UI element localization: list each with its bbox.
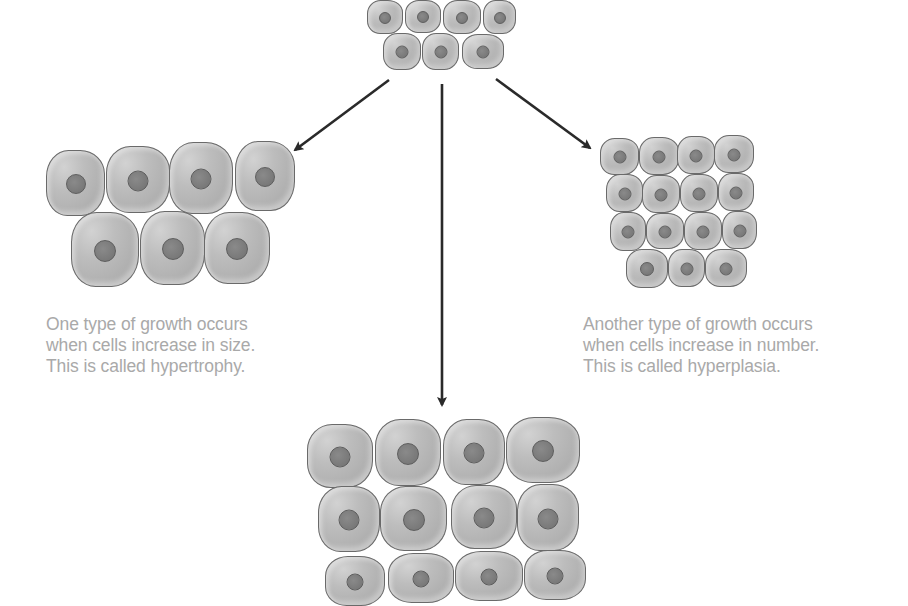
- cell: [455, 551, 523, 601]
- nucleus-icon: [653, 150, 666, 163]
- cell: [106, 146, 170, 213]
- cell: [325, 556, 385, 606]
- nucleus-icon: [255, 167, 275, 187]
- cell: [517, 484, 579, 551]
- nucleus-icon: [733, 224, 746, 237]
- cell: [606, 174, 643, 212]
- nucleus-icon: [403, 509, 425, 531]
- caption-line: This is called hyperplasia.: [583, 356, 819, 377]
- caption-line: when cells increase in number.: [583, 335, 819, 356]
- cell: [714, 135, 754, 173]
- cell: [646, 213, 684, 249]
- nucleus-icon: [655, 188, 668, 201]
- cell: [169, 142, 233, 214]
- nucleus-icon: [659, 225, 672, 238]
- hyperplasia-caption: Another type of growth occurs when cells…: [583, 314, 819, 377]
- nucleus-icon: [396, 46, 409, 59]
- nucleus-icon: [538, 508, 559, 529]
- nucleus-icon: [417, 11, 429, 23]
- nucleus-icon: [66, 174, 86, 194]
- nucleus-icon: [397, 443, 419, 465]
- nucleus-icon: [640, 262, 654, 276]
- cell: [235, 141, 295, 211]
- nucleus-icon: [693, 187, 706, 200]
- caption-line: when cells increase in size.: [46, 335, 255, 356]
- nucleus-icon: [330, 447, 351, 468]
- cell: [405, 0, 441, 33]
- cell: [462, 34, 504, 69]
- nucleus-icon: [191, 169, 212, 190]
- nucleus-icon: [128, 170, 149, 191]
- nucleus-icon: [477, 46, 490, 59]
- nucleus-icon: [481, 568, 498, 585]
- cell: [722, 211, 757, 249]
- cell: [506, 417, 580, 483]
- nucleus-icon: [434, 46, 447, 59]
- caption-line: One type of growth occurs: [46, 314, 255, 335]
- nucleus-icon: [347, 573, 364, 590]
- cell: [383, 33, 421, 70]
- nucleus-icon: [613, 151, 626, 164]
- cell: [318, 486, 380, 552]
- nucleus-icon: [379, 12, 391, 24]
- cell: [380, 486, 447, 551]
- nucleus-icon: [728, 148, 741, 161]
- cell: [626, 249, 668, 288]
- cell: [375, 419, 441, 486]
- caption-line: This is called hypertrophy.: [46, 356, 255, 377]
- nucleus-icon: [730, 186, 743, 199]
- cell: [46, 150, 105, 216]
- cell: [422, 33, 459, 70]
- cell: [668, 249, 705, 287]
- caption-line: Another type of growth occurs: [583, 314, 819, 335]
- cell: [600, 138, 639, 175]
- nucleus-icon: [226, 238, 248, 260]
- nucleus-icon: [413, 570, 430, 587]
- cell: [443, 0, 481, 34]
- cell: [718, 173, 754, 211]
- cell: [524, 550, 586, 600]
- cell: [443, 419, 505, 485]
- cell: [677, 136, 715, 174]
- cell: [639, 137, 679, 175]
- cell: [483, 0, 516, 34]
- nucleus-icon: [456, 12, 468, 24]
- cell: [705, 249, 747, 287]
- nucleus-icon: [680, 262, 693, 275]
- cell: [684, 212, 722, 250]
- nucleus-icon: [622, 226, 635, 239]
- hypertrophy-caption: One type of growth occurs when cells inc…: [46, 314, 255, 377]
- cell: [610, 212, 646, 251]
- cell: [307, 424, 373, 488]
- nucleus-icon: [474, 508, 495, 529]
- nucleus-icon: [339, 510, 360, 531]
- nucleus-icon: [532, 440, 554, 462]
- cell: [140, 211, 205, 285]
- nucleus-icon: [464, 443, 485, 464]
- cell: [204, 212, 270, 284]
- nucleus-icon: [547, 567, 564, 584]
- nucleus-icon: [494, 12, 506, 24]
- nucleus-icon: [690, 149, 703, 162]
- cell: [71, 212, 139, 287]
- cell: [680, 174, 718, 212]
- nucleus-icon: [618, 187, 631, 200]
- cell: [388, 553, 454, 603]
- nucleus-icon: [720, 262, 733, 275]
- nucleus-icon: [162, 238, 184, 260]
- nucleus-icon: [697, 225, 710, 238]
- arrow-to-hypertrophy-icon: [295, 80, 389, 150]
- cell: [367, 0, 403, 34]
- nucleus-icon: [94, 240, 116, 262]
- cell: [451, 485, 517, 549]
- cell: [642, 175, 680, 213]
- arrow-to-hyperplasia-icon: [496, 79, 590, 148]
